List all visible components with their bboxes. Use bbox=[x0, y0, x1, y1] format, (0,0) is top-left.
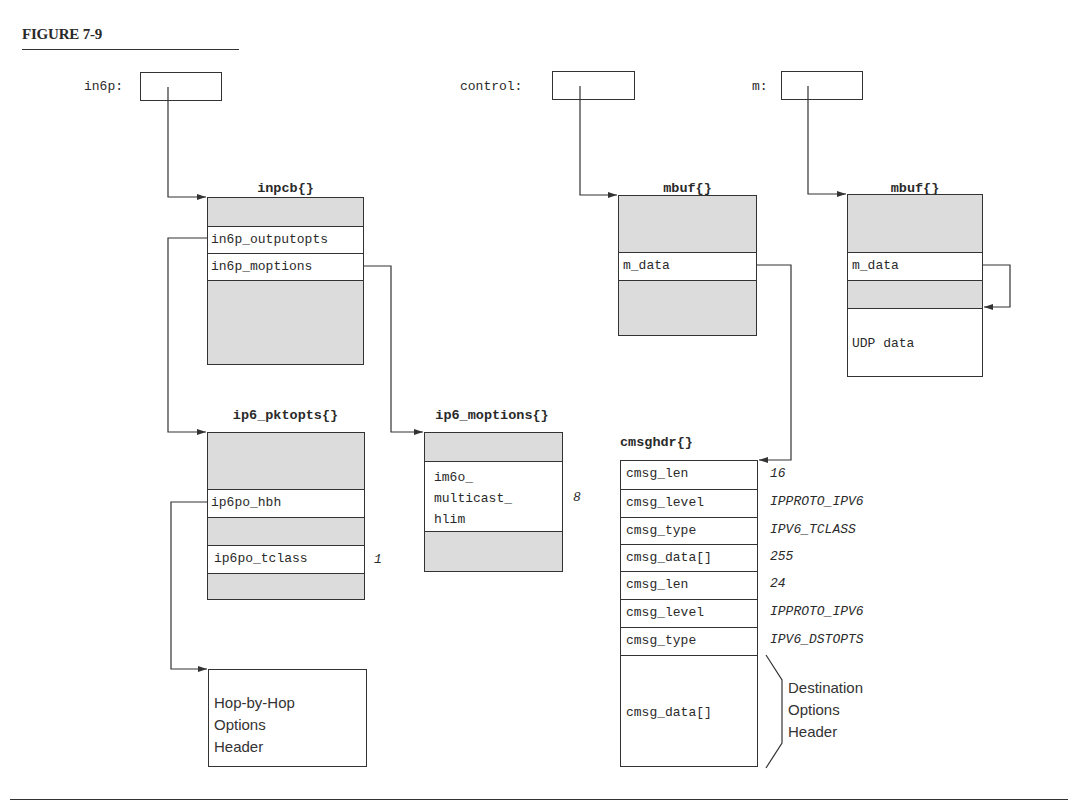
cmsghdr-value: IPV6_DSTOPTS bbox=[770, 633, 864, 647]
field-label: in6p_moptions bbox=[211, 259, 312, 275]
arrow-outputopts-to-pktopts bbox=[168, 238, 207, 432]
ip6-pktopts-struct: ip6po_hbh ip6po_tclass bbox=[207, 432, 365, 600]
cmsghdr-row: cmsg_type bbox=[621, 627, 757, 655]
ip6-pktopts-title: ip6_pktopts{} bbox=[207, 408, 364, 423]
pktopts-field-hbh: ip6po_hbh bbox=[208, 489, 364, 517]
inpcb-title: inpcb{} bbox=[207, 181, 364, 196]
field-label: cmsg_data[] bbox=[626, 550, 712, 566]
hlim-value: 8 bbox=[573, 491, 581, 505]
cmsghdr-value: IPPROTO_IPV6 bbox=[770, 605, 864, 619]
inpcb-field-outputopts: in6p_outputopts bbox=[208, 226, 363, 253]
inpcb-cell-bottom bbox=[208, 280, 363, 364]
ip6-moptions-title: ip6_moptions{} bbox=[412, 408, 572, 423]
mbuf-control-title: mbuf{} bbox=[618, 181, 757, 196]
cmsghdr-row: cmsg_len bbox=[621, 571, 757, 599]
cmsghdr-row: cmsg_level bbox=[621, 489, 757, 517]
inpcb-cell-top bbox=[208, 198, 363, 226]
inpcb-field-moptions: in6p_moptions bbox=[208, 253, 363, 280]
title-rule bbox=[22, 49, 239, 50]
moptions-field-hlim: im6o_ multicast_ hlim bbox=[425, 461, 562, 531]
figure-canvas: FIGURE 7-9 in6p: control: m: inpcb{} in6… bbox=[0, 0, 1078, 810]
udp-data-label: UDP data bbox=[852, 336, 914, 352]
arrow-hbh-to-header bbox=[171, 502, 207, 669]
mbuf-control-cell-bottom bbox=[619, 280, 756, 335]
pktopts-cell-mid bbox=[208, 517, 364, 545]
cmsghdr-value: 16 bbox=[770, 467, 786, 481]
mbuf-m-udp-data: UDP data bbox=[848, 308, 982, 376]
cmsghdr-row: cmsg_len bbox=[621, 461, 757, 489]
tclass-value: 1 bbox=[374, 553, 382, 567]
field-label: cmsg_type bbox=[626, 633, 696, 649]
pktopts-cell-top bbox=[208, 433, 364, 489]
pktopts-field-tclass: ip6po_tclass bbox=[208, 545, 364, 573]
arrow-mdata-to-cmsghdr bbox=[757, 265, 791, 460]
cmsghdr-struct: cmsg_len cmsg_level cmsg_type cmsg_data[… bbox=[620, 460, 758, 767]
field-label: m_data bbox=[623, 258, 670, 274]
field-label: in6p_outputopts bbox=[211, 232, 328, 248]
arrow-control-to-mbuf bbox=[580, 86, 617, 195]
field-label: cmsg_len bbox=[626, 466, 688, 482]
mbuf-control-struct: m_data bbox=[618, 195, 757, 336]
mbuf-m-cell-mid bbox=[848, 280, 982, 308]
in6p-pointer-box bbox=[140, 72, 222, 101]
inpcb-struct: in6p_outputopts in6p_moptions bbox=[207, 197, 364, 365]
hop-by-hop-header-box: Hop-by-Hop Options Header bbox=[208, 669, 367, 767]
arrow-mdata-to-udp bbox=[983, 265, 1010, 307]
hop-by-hop-label: Hop-by-Hop Options Header bbox=[214, 692, 295, 758]
arrow-in6p-to-inpcb bbox=[168, 87, 206, 197]
ip6-moptions-struct: im6o_ multicast_ hlim bbox=[424, 432, 563, 572]
cmsghdr-row: cmsg_type bbox=[621, 517, 757, 544]
field-label: cmsg_len bbox=[626, 577, 688, 593]
field-label: ip6po_hbh bbox=[211, 495, 281, 511]
field-label: m_data bbox=[852, 258, 899, 274]
pktopts-cell-bottom bbox=[208, 573, 364, 599]
control-label: control: bbox=[460, 80, 522, 94]
cmsghdr-title: cmsghdr{} bbox=[620, 435, 730, 450]
m-label: m: bbox=[752, 80, 768, 94]
moptions-cell-bottom bbox=[425, 531, 562, 571]
connector-lines bbox=[0, 0, 1078, 810]
cmsghdr-value: 24 bbox=[770, 577, 786, 591]
cmsghdr-row: cmsg_level bbox=[621, 599, 757, 627]
destination-options-label: Destination Options Header bbox=[788, 677, 863, 743]
mbuf-m-cell-top bbox=[848, 195, 982, 252]
moptions-cell-top bbox=[425, 433, 562, 461]
figure-title: FIGURE 7-9 bbox=[22, 26, 102, 43]
field-label: cmsg_type bbox=[626, 523, 696, 539]
cmsghdr-value: IPV6_TCLASS bbox=[770, 523, 856, 537]
field-label: ip6po_tclass bbox=[214, 551, 308, 567]
m-pointer-box bbox=[781, 71, 863, 100]
field-label: im6o_ multicast_ hlim bbox=[434, 467, 512, 530]
cmsghdr-value: 255 bbox=[770, 550, 793, 564]
mbuf-m-field-mdata: m_data bbox=[848, 252, 982, 280]
mbuf-control-field-mdata: m_data bbox=[619, 252, 756, 280]
arrow-m-to-mbuf bbox=[808, 86, 846, 194]
in6p-label: in6p: bbox=[84, 80, 123, 94]
cmsghdr-row: cmsg_data[] bbox=[621, 544, 757, 571]
field-label: cmsg_data[] bbox=[626, 705, 712, 721]
control-pointer-box bbox=[552, 71, 635, 100]
mbuf-m-struct: m_data UDP data bbox=[847, 194, 983, 377]
field-label: cmsg_level bbox=[626, 495, 704, 511]
field-label: cmsg_level bbox=[626, 605, 704, 621]
brace-icon bbox=[766, 655, 782, 768]
bottom-rule bbox=[10, 799, 1068, 800]
cmsghdr-row: cmsg_data[] bbox=[621, 655, 757, 766]
cmsghdr-value: IPPROTO_IPV6 bbox=[770, 495, 864, 509]
mbuf-control-cell-top bbox=[619, 196, 756, 252]
